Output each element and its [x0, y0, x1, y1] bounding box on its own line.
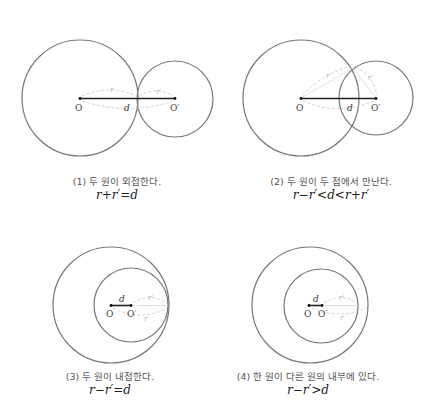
svg-text:r′: r′: [148, 293, 154, 302]
svg-text:r′: r′: [368, 73, 374, 82]
label-O-prime: O′: [371, 103, 380, 113]
svg-text:r: r: [340, 313, 344, 322]
panel-3-figure: d r′ r O O′: [53, 247, 169, 363]
formula-panel-2: r−r′<d<r+r′: [293, 188, 369, 202]
panel-2-figure: r r′ O d O′: [243, 40, 413, 156]
svg-text:r′: r′: [156, 87, 162, 96]
panel-1-figure: r r′ O d O′: [22, 40, 213, 156]
label-d: d: [124, 103, 130, 113]
svg-text:r: r: [144, 314, 148, 323]
center-O-dot: [79, 97, 82, 100]
svg-text:r′: r′: [339, 293, 345, 302]
svg-text:r: r: [326, 71, 330, 80]
center-O-prime-dot: [321, 304, 324, 307]
caption-panel-2: (2) 두 원이 두 점에서 만난다.: [270, 174, 392, 188]
caption-panel-1: (1) 두 원이 외접한다.: [73, 174, 162, 188]
label-O-prime: O′: [170, 103, 179, 113]
label-d: d: [313, 294, 319, 304]
circle-positions-diagram: r r′ O d O′ r r′ O d O′ d r′ r O O: [0, 0, 430, 406]
distance-d-arc: [303, 101, 374, 109]
center-O-prime-dot: [130, 304, 133, 307]
formula-panel-4: r−r′>d: [287, 383, 329, 397]
label-O: O: [304, 309, 311, 319]
center-O-dot: [308, 304, 311, 307]
radius-r-arc: [113, 308, 167, 315]
panel-4-figure: d r′ r O O′: [252, 247, 368, 363]
caption-panel-3: (3) 두 원이 내접한다.: [66, 369, 155, 383]
label-d: d: [347, 103, 353, 113]
center-O-prime-dot: [174, 97, 177, 100]
center-O-prime-dot: [375, 97, 378, 100]
caption-panel-4: (4) 한 원이 다른 원의 내부에 있다.: [237, 369, 380, 383]
label-O-prime: O′: [127, 309, 136, 319]
center-O-dot: [300, 97, 303, 100]
center-O-dot: [110, 304, 113, 307]
label-O: O: [296, 103, 303, 113]
label-O: O: [75, 103, 82, 113]
label-d: d: [119, 294, 125, 304]
formula-panel-3: r−r′=d: [89, 383, 131, 397]
label-O-prime: O′: [318, 309, 327, 319]
formula-panel-1: r+r′=d: [96, 188, 138, 202]
label-O: O: [106, 309, 113, 319]
svg-text:r: r: [110, 85, 114, 94]
